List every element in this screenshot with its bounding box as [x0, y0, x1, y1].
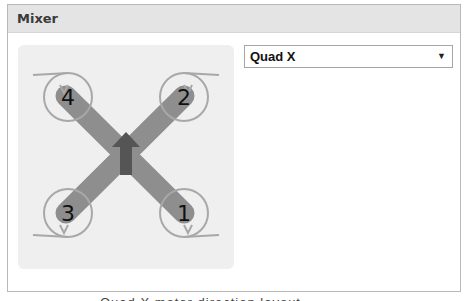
motor-label-3: 3: [61, 201, 75, 226]
motor-label-2: 2: [177, 85, 191, 110]
motor-label-4: 4: [61, 85, 75, 110]
panel-title: Mixer: [8, 5, 460, 33]
mixer-diagram: 4 2 3 1: [18, 45, 234, 269]
mixer-panel: Mixer 4: [7, 4, 461, 292]
clipped-footer-text: Quad X motor direction layout: [0, 292, 469, 301]
quad-x-diagram: 4 2 3 1: [18, 45, 234, 269]
mixer-type-select[interactable]: Quad X ▼: [244, 45, 453, 68]
motor-label-1: 1: [177, 201, 191, 226]
chevron-down-icon: ▼: [437, 51, 446, 61]
mixer-type-value: Quad X: [250, 49, 296, 64]
